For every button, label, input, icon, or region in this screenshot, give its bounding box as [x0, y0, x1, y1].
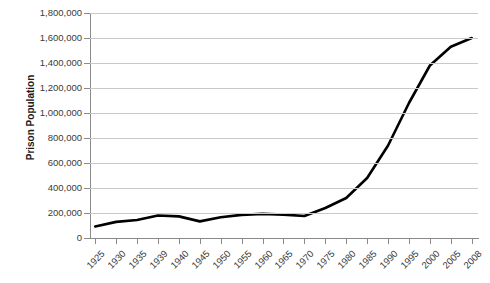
x-axis-tick-mark	[179, 239, 180, 244]
x-axis-tick-mark	[158, 239, 159, 244]
y-axis-tick-label: 1,200,000	[10, 83, 82, 93]
y-axis-tick-mark	[84, 38, 90, 39]
y-axis-tick-mark	[84, 113, 90, 114]
x-axis-line	[90, 238, 479, 239]
x-axis-tick-mark	[409, 239, 410, 244]
y-axis-tick-mark	[84, 88, 90, 89]
plot-area	[90, 13, 478, 238]
y-axis-tick-mark	[84, 63, 90, 64]
y-axis-tick-mark	[84, 163, 90, 164]
gridline	[90, 63, 478, 64]
x-axis-tick-mark	[242, 239, 243, 244]
x-axis-tick-mark	[367, 239, 368, 244]
data-series-line	[90, 13, 478, 238]
x-axis-tick-mark	[200, 239, 201, 244]
y-axis-tick-label: 1,600,000	[10, 33, 82, 43]
x-axis-tick-mark	[388, 239, 389, 244]
gridline	[90, 188, 478, 189]
x-axis-tick-mark	[346, 239, 347, 244]
gridline	[90, 38, 478, 39]
prison-population-line-chart: Prison Population 0200,000400,000600,000…	[0, 0, 490, 283]
gridline	[90, 163, 478, 164]
gridline	[90, 138, 478, 139]
x-axis-tick-mark	[430, 239, 431, 244]
x-axis-tick-mark	[263, 239, 264, 244]
y-axis-tick-mark	[84, 238, 90, 239]
y-axis-tick-label: 1,000,000	[10, 108, 82, 118]
x-axis-tick-mark	[325, 239, 326, 244]
gridline	[90, 113, 478, 114]
y-axis-tick-label: 0	[10, 233, 82, 243]
y-axis-tick-label: 1,800,000	[10, 8, 82, 18]
x-axis-tick-mark	[221, 239, 222, 244]
x-axis-tick-mark	[283, 239, 284, 244]
y-axis-tick-mark	[84, 213, 90, 214]
y-axis-tick-mark	[84, 188, 90, 189]
x-axis-tick-mark	[116, 239, 117, 244]
y-axis-tick-label: 1,400,000	[10, 58, 82, 68]
x-axis-tick-mark	[137, 239, 138, 244]
y-axis-tick-mark	[84, 138, 90, 139]
y-axis-tick-label: 600,000	[10, 158, 82, 168]
x-axis-tick-mark	[472, 239, 473, 244]
gridline	[90, 88, 478, 89]
gridline	[90, 13, 478, 14]
y-axis-tick-mark	[84, 13, 90, 14]
y-axis-tick-labels: 0200,000400,000600,000800,0001,000,0001,…	[10, 13, 82, 238]
gridline	[90, 213, 478, 214]
y-axis-tick-label: 200,000	[10, 208, 82, 218]
x-axis-tick-mark	[304, 239, 305, 244]
y-axis-tick-label: 800,000	[10, 133, 82, 143]
x-axis-tick-mark	[95, 239, 96, 244]
y-axis-tick-label: 400,000	[10, 183, 82, 193]
x-axis-tick-mark	[451, 239, 452, 244]
